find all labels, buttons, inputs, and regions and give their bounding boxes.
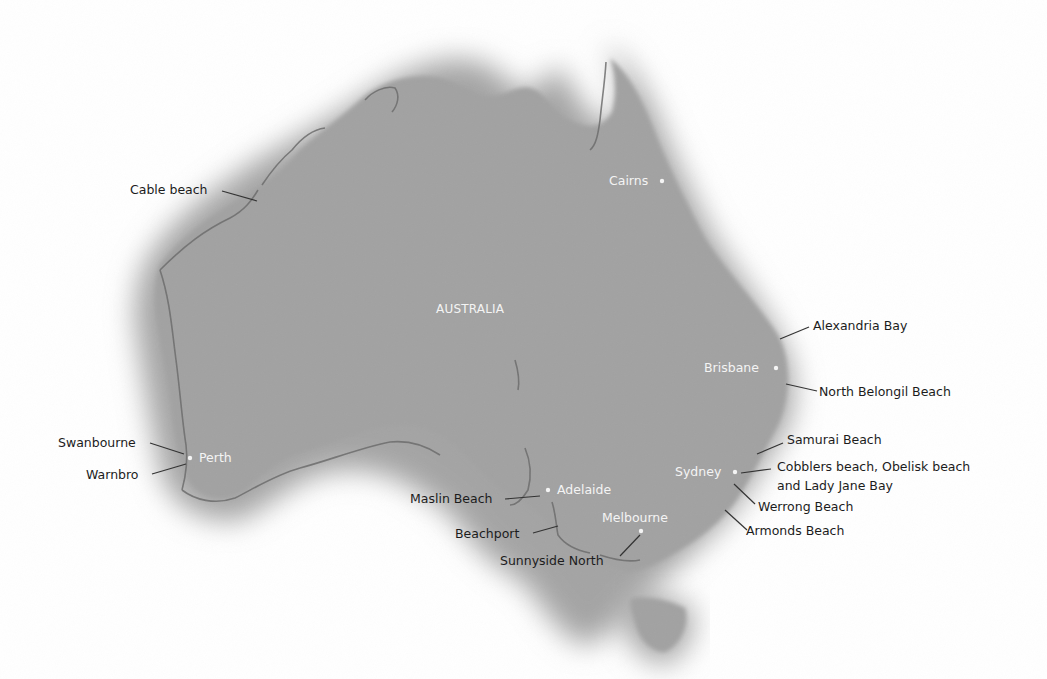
city-label-adelaide: Adelaide bbox=[557, 482, 611, 498]
city-dot-adelaide bbox=[546, 488, 550, 492]
australia-map bbox=[0, 0, 1047, 679]
city-dot-melbourne bbox=[639, 529, 643, 533]
city-label-melbourne: Melbourne bbox=[602, 510, 668, 526]
city-label-sydney: Sydney bbox=[675, 464, 721, 480]
beach-label-cable-beach: Cable beach bbox=[130, 182, 208, 198]
beach-label-warnbro: Warnbro bbox=[86, 467, 139, 483]
beach-label-armonds: Armonds Beach bbox=[746, 523, 844, 539]
beach-label-cobblers-line2: and Lady Jane Bay bbox=[777, 478, 893, 494]
beach-label-maslin: Maslin Beach bbox=[410, 491, 493, 507]
beach-label-sunnyside-north: Sunnyside North bbox=[500, 553, 604, 569]
country-label: AUSTRALIA bbox=[436, 301, 504, 317]
beach-label-cobblers-line1: Cobblers beach, Obelisk beach bbox=[777, 459, 970, 475]
city-dot-brisbane bbox=[774, 366, 778, 370]
beach-label-swanbourne: Swanbourne bbox=[58, 435, 136, 451]
city-dot-sydney bbox=[733, 470, 737, 474]
land-texture bbox=[0, 0, 1047, 679]
beach-label-samurai: Samurai Beach bbox=[787, 432, 882, 448]
city-dot-perth bbox=[188, 456, 192, 460]
beach-label-werrong: Werrong Beach bbox=[758, 499, 853, 515]
beach-label-alexandria-bay: Alexandria Bay bbox=[813, 318, 907, 334]
beach-label-beachport: Beachport bbox=[455, 526, 519, 542]
beach-label-north-belongil: North Belongil Beach bbox=[819, 384, 951, 400]
city-label-brisbane: Brisbane bbox=[704, 360, 759, 376]
city-dot-cairns bbox=[660, 179, 664, 183]
city-label-cairns: Cairns bbox=[609, 173, 648, 189]
city-label-perth: Perth bbox=[199, 450, 232, 466]
